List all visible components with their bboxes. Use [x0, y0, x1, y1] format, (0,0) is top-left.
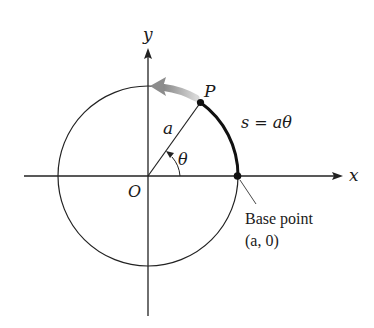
origin-label: O: [128, 182, 141, 201]
x-axis-label: x: [349, 165, 359, 185]
base-point: [234, 172, 242, 180]
arc-length-label: s = aθ: [241, 113, 292, 132]
point-P-label: P: [203, 81, 216, 101]
counterclockwise-arrow-icon: [150, 77, 196, 98]
base-point-leader-line: [240, 180, 256, 204]
angle-arrowhead-icon: [166, 151, 174, 158]
y-axis-label: y: [142, 24, 153, 44]
base-point-label: Base point: [245, 210, 314, 228]
y-axis: [144, 48, 152, 316]
radius-label: a: [163, 118, 173, 138]
unit-circle-arc-diagram: y x O a θ P s = aθ Base point (a, 0): [0, 0, 374, 328]
base-point-coordinates: (a, 0): [245, 232, 279, 250]
x-axis: [24, 172, 343, 180]
arc-s: [201, 103, 239, 177]
radius-line: [148, 103, 201, 177]
angle-label: θ: [178, 150, 188, 169]
